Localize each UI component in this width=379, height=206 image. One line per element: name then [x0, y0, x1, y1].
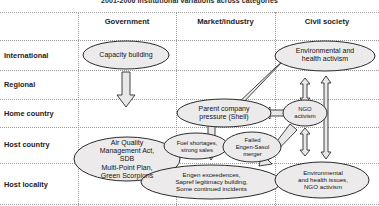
- node-shape-environmental-health-activism: [275, 41, 375, 71]
- arrow-capacity-building-down: [117, 72, 135, 107]
- node-shape-fuel-shortages: [164, 133, 228, 159]
- node-shape-failed-merger: [223, 132, 281, 162]
- arrow-ngo-to-issues-link: [300, 128, 310, 156]
- node-shape-engen-exceedences: [141, 165, 281, 199]
- node-shape-parent-company-pressure: [177, 99, 271, 127]
- figure-canvas: 2001-2006 Institutional variations acros…: [0, 0, 379, 206]
- node-shape-ngo-activism: [283, 100, 327, 126]
- diagram-shapes: [0, 0, 379, 206]
- node-shape-capacity-building: [83, 41, 169, 69]
- node-shape-environmental-health-issues: [275, 162, 369, 198]
